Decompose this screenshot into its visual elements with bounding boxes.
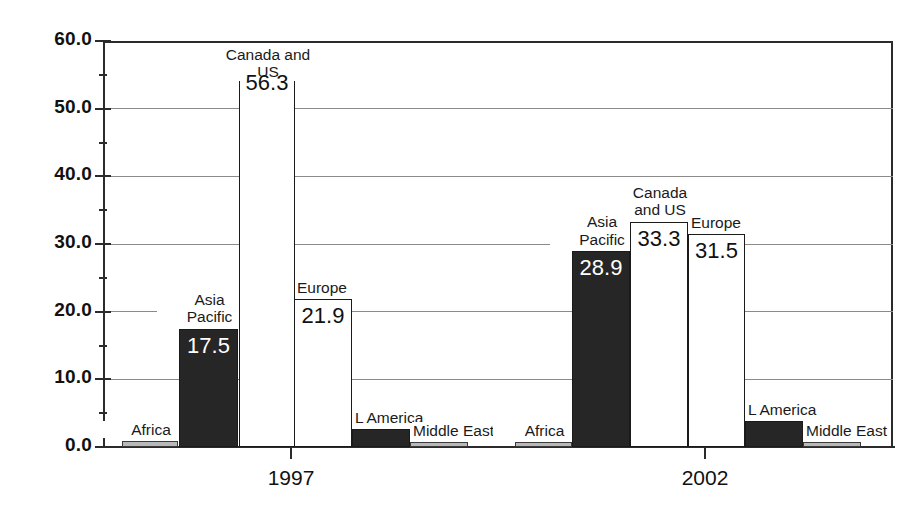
bar-value-label: 56.3 bbox=[239, 70, 295, 96]
bar-chart: 0.010.020.030.040.050.060.0 AfricaAsia P… bbox=[0, 0, 923, 508]
y-axis-tick bbox=[95, 40, 111, 42]
y-axis-tick-label: 30.0 bbox=[16, 231, 92, 253]
y-axis-minor-tick bbox=[99, 74, 107, 76]
bar-region-label: Middle East bbox=[412, 422, 495, 439]
gridline bbox=[103, 244, 893, 245]
bar bbox=[688, 234, 745, 447]
x-axis-tick bbox=[290, 448, 292, 459]
y-axis-minor-tick bbox=[99, 209, 107, 211]
bar-value-label: 21.9 bbox=[294, 303, 352, 329]
bar-region-label: Europe bbox=[296, 279, 348, 296]
y-axis-tick bbox=[95, 378, 111, 380]
bar-value-label: 33.3 bbox=[630, 226, 688, 252]
x-axis-category-label: 1997 bbox=[211, 466, 371, 490]
y-axis-minor-tick bbox=[99, 412, 107, 414]
x-axis-category-label: 2002 bbox=[625, 466, 785, 490]
gridline bbox=[103, 176, 893, 177]
bar-value-label: 31.5 bbox=[688, 238, 745, 264]
y-axis-minor-tick bbox=[99, 345, 107, 347]
bar bbox=[630, 222, 688, 447]
bar-region-label: L America bbox=[747, 401, 817, 418]
bar bbox=[239, 66, 295, 447]
y-axis-tick bbox=[95, 108, 111, 110]
y-axis-tick bbox=[95, 243, 111, 245]
y-axis-tick-label: 0.0 bbox=[16, 434, 92, 456]
y-axis-tick bbox=[95, 311, 111, 313]
bar bbox=[803, 442, 861, 447]
y-axis-tick bbox=[95, 446, 111, 448]
bar bbox=[410, 442, 468, 447]
gridline bbox=[103, 108, 893, 109]
bar-region-label: Europe bbox=[690, 214, 742, 231]
y-axis-tick-label: 40.0 bbox=[16, 163, 92, 185]
y-axis-tick-label: 50.0 bbox=[16, 96, 92, 118]
y-axis-minor-tick bbox=[99, 142, 107, 144]
y-axis-tick-label: 60.0 bbox=[16, 28, 92, 50]
bar bbox=[515, 442, 572, 447]
bar bbox=[745, 421, 803, 447]
y-axis-tick-label: 20.0 bbox=[16, 299, 92, 321]
bar bbox=[122, 441, 178, 447]
y-axis-tick-label: 10.0 bbox=[16, 366, 92, 388]
bar-region-label: Middle East bbox=[805, 422, 888, 439]
bar-value-label: 17.5 bbox=[179, 333, 238, 359]
bar-value-label: 28.9 bbox=[572, 255, 630, 281]
bar bbox=[352, 429, 410, 447]
x-axis-tick bbox=[704, 448, 706, 459]
y-axis-minor-tick bbox=[99, 277, 107, 279]
y-axis-tick bbox=[95, 175, 111, 177]
